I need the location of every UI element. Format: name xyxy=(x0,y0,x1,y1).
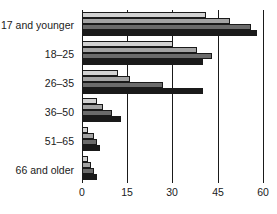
x-tick-label-15: 15 xyxy=(121,186,133,198)
y-axis-label-3: 36–50 xyxy=(45,107,74,118)
bar-group xyxy=(82,41,263,65)
bar-groups xyxy=(82,10,263,183)
y-axis-label-0: 17 and younger xyxy=(1,20,74,31)
bar xyxy=(82,116,121,122)
x-tick-label-0: 0 xyxy=(79,186,85,198)
bar xyxy=(82,88,203,94)
bar-chart: 17 and younger 18–25 26–35 36–50 51–65 6… xyxy=(0,0,277,214)
y-axis-category-labels: 17 and younger 18–25 26–35 36–50 51–65 6… xyxy=(0,10,78,183)
bar xyxy=(82,145,100,151)
plot-area xyxy=(82,10,263,183)
bar-group xyxy=(82,12,263,36)
x-axis-tick-labels: 0 15 30 45 60 xyxy=(82,186,277,202)
y-axis-label-2: 26–35 xyxy=(45,78,74,89)
bar xyxy=(82,30,257,36)
x-tick-label-60: 60 xyxy=(257,186,269,198)
bar-group xyxy=(82,156,263,180)
y-axis-label-4: 51–65 xyxy=(45,136,74,147)
x-tick-label-30: 30 xyxy=(166,186,178,198)
bar xyxy=(82,59,203,65)
x-tick-label-45: 45 xyxy=(212,186,224,198)
bar-group xyxy=(82,70,263,94)
bar xyxy=(82,174,97,180)
y-axis-label-1: 18–25 xyxy=(45,49,74,60)
gridline-60 xyxy=(263,10,264,183)
bar-group xyxy=(82,127,263,151)
bar-group xyxy=(82,98,263,122)
y-axis-label-5: 66 and older xyxy=(16,165,74,176)
